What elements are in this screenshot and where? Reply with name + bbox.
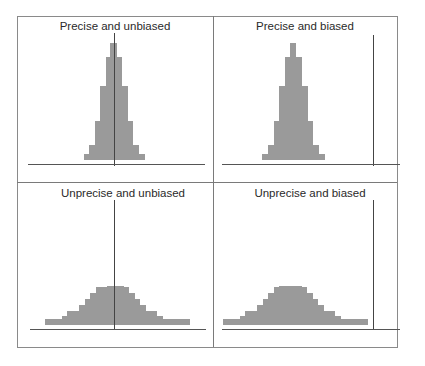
histogram <box>262 43 325 160</box>
panel-unprecise-biased: Unprecise and biased <box>222 187 400 330</box>
panel-precise-biased: Precise and biased <box>222 20 400 166</box>
histogram <box>45 286 190 325</box>
panel-title: Precise and biased <box>256 20 354 32</box>
histogram <box>223 286 368 325</box>
panel-unprecise-unbiased: Unprecise and unbiased <box>30 187 206 330</box>
panel-precise-unbiased: Precise and unbiased <box>28 20 205 166</box>
panel-title: Precise and unbiased <box>60 20 171 32</box>
panel-title: Unprecise and unbiased <box>61 187 185 199</box>
precision-bias-figure: Precise and unbiased Precise and biased … <box>0 0 425 366</box>
panel-title: Unprecise and biased <box>254 187 365 199</box>
